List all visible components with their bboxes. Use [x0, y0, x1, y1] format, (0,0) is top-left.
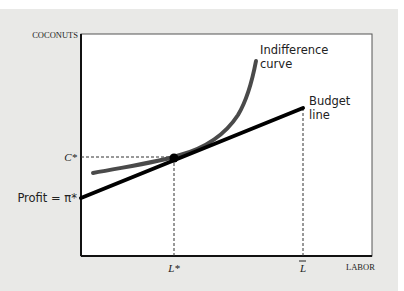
- indifference-label-line2: curve: [260, 57, 292, 71]
- budget-label-line1: Budget: [309, 94, 351, 108]
- c-star-label: C*: [64, 151, 77, 163]
- tangency-point: [170, 154, 179, 163]
- diagram: COCONUTS LABOR Indifference curve Budget…: [0, 0, 404, 291]
- l-bar-label: L: [299, 262, 306, 274]
- budget-label-line2: line: [309, 108, 330, 122]
- y-axis-label: COCONUTS: [32, 30, 78, 40]
- indifference-label-line1: Indifference: [260, 43, 328, 57]
- plot-area: [81, 34, 372, 256]
- x-axis-label: LABOR: [346, 262, 375, 272]
- profit-label: Profit = π*: [17, 191, 77, 205]
- l-star-label: L*: [167, 262, 180, 274]
